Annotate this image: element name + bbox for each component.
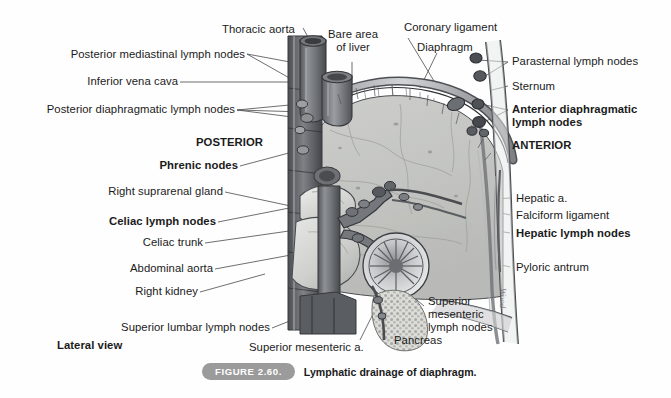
label-hepatic-lymph-nodes: Hepatic lymph nodes [516, 227, 631, 240]
label-sternum: Sternum [512, 80, 555, 93]
label-posterior-diaphragmatic-lymph-nodes: Posterior diaphragmatic lymph nodes [0, 103, 235, 116]
label-right-suprarenal-gland: Right suprarenal gland [0, 185, 223, 198]
label-diaphragm: Diaphragm [417, 41, 473, 54]
label-parasternal-lymph-nodes: Parasternal lymph nodes [512, 55, 638, 68]
label-hepatic-artery: Hepatic a. [516, 192, 567, 205]
anterior-diaphragmatic-line1: Anterior diaphragmatic [512, 103, 637, 115]
label-coronary-ligament: Coronary ligament [404, 21, 497, 34]
label-bare-area-of-liver: Bare area of liver [322, 28, 384, 53]
sml-line3: lymph nodes [428, 321, 493, 333]
bare-area-line2: of liver [336, 41, 370, 53]
label-superior-mesenteric-lymph-nodes: Superior mesenteric lymph nodes [428, 295, 508, 333]
label-thoracic-aorta: Thoracic aorta [222, 23, 295, 36]
label-falciform-ligament: Falciform ligament [516, 209, 609, 222]
label-anterior-diaphragmatic-lymph-nodes: Anterior diaphragmatic lymph nodes [512, 103, 662, 128]
label-inferior-vena-cava: Inferior vena cava [0, 75, 178, 88]
label-posterior-mediastinal-lymph-nodes: Posterior mediastinal lymph nodes [0, 48, 245, 61]
label-superior-lumbar-lymph-nodes: Superior lumbar lymph nodes [0, 321, 270, 334]
anterior-diaphragmatic-line2: lymph nodes [512, 116, 582, 128]
figure-caption-text: Lymphatic drainage of diaphragm. [304, 366, 477, 378]
sml-line2: mesenteric [428, 308, 484, 320]
label-superior-mesenteric-artery: Superior mesenteric a. [249, 341, 364, 354]
label-celiac-lymph-nodes: Celiac lymph nodes [0, 215, 216, 228]
sml-line1: Superior [428, 295, 471, 307]
label-pyloric-antrum: Pyloric antrum [516, 261, 589, 274]
bare-area-line1: Bare area [328, 28, 378, 40]
label-posterior-orientation: POSTERIOR [196, 136, 263, 149]
label-pancreas: Pancreas [394, 334, 442, 347]
label-abdominal-aorta: Abdominal aorta [0, 262, 213, 275]
label-right-kidney: Right kidney [0, 285, 198, 298]
artist-signature: Wood [498, 288, 508, 308]
label-celiac-trunk: Celiac trunk [0, 236, 203, 249]
anatomy-figure: Thoracic aorta Bare area of liver Corona… [0, 0, 671, 398]
figure-number-badge: FIGURE 2.60. [202, 363, 295, 380]
figure-caption: FIGURE 2.60. Lymphatic drainage of diaph… [202, 363, 477, 380]
label-lateral-view: Lateral view [57, 339, 122, 352]
label-anterior-orientation: ANTERIOR [512, 139, 571, 152]
label-phrenic-nodes: Phrenic nodes [0, 159, 238, 172]
